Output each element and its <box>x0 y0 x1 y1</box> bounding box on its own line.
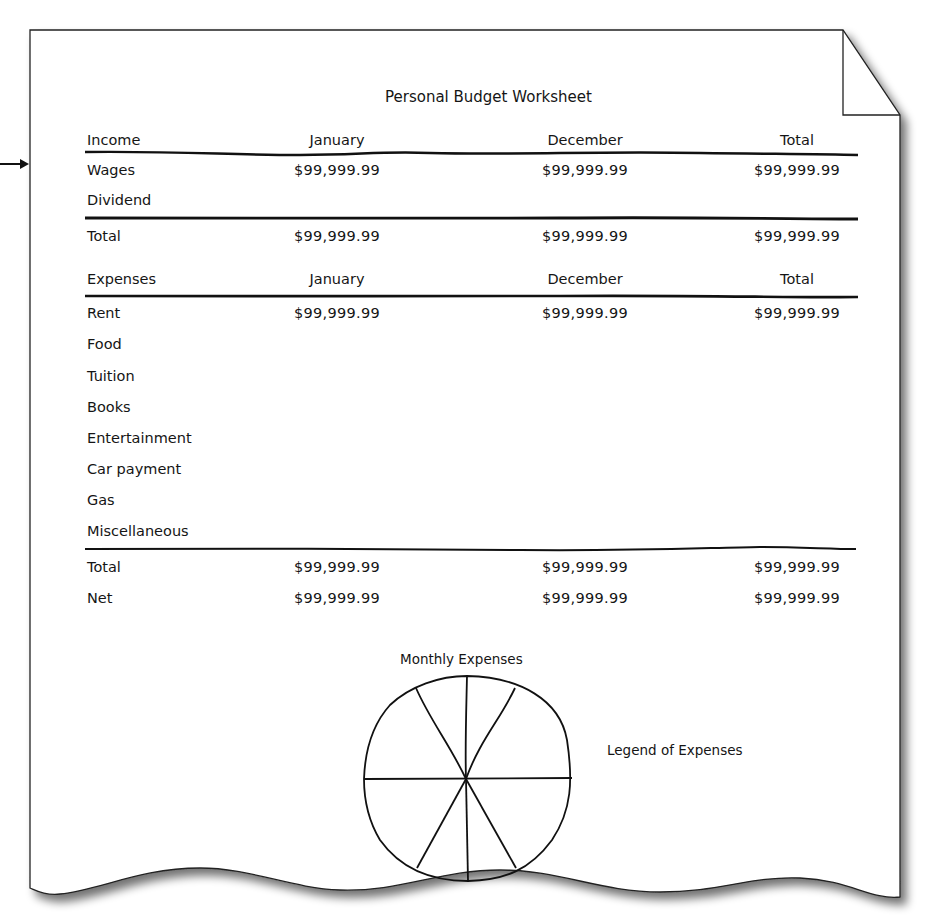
row-label-car-payment: Car payment <box>87 460 181 478</box>
expenses-total-january: $99,999.99 <box>294 558 380 576</box>
expenses-total-december: $99,999.99 <box>542 558 628 576</box>
arrow-right-icon <box>0 159 29 169</box>
wages-january: $99,999.99 <box>294 161 380 179</box>
net-december: $99,999.99 <box>542 589 628 607</box>
income-header-december: December <box>547 131 622 149</box>
net-total: $99,999.99 <box>754 589 840 607</box>
income-total-label: Total <box>87 227 121 245</box>
expenses-header-label: Expenses <box>87 270 156 288</box>
expenses-header-january: January <box>310 270 365 288</box>
row-label-dividend: Dividend <box>87 191 151 209</box>
income-total-total: $99,999.99 <box>754 227 840 245</box>
expenses-total-total: $99,999.99 <box>754 558 840 576</box>
rent-december: $99,999.99 <box>542 304 628 322</box>
wages-total: $99,999.99 <box>754 161 840 179</box>
row-label-wages: Wages <box>87 161 135 179</box>
pie-chart-legend: Legend of Expenses <box>607 741 743 759</box>
expenses-total-label: Total <box>87 558 121 576</box>
row-label-gas: Gas <box>87 491 115 509</box>
wages-december: $99,999.99 <box>542 161 628 179</box>
income-total-december: $99,999.99 <box>542 227 628 245</box>
net-january: $99,999.99 <box>294 589 380 607</box>
pie-chart-title: Monthly Expenses <box>400 650 523 668</box>
row-label-food: Food <box>87 335 122 353</box>
income-header-january: January <box>310 131 365 149</box>
row-label-books: Books <box>87 398 131 416</box>
row-label-entertainment: Entertainment <box>87 429 192 447</box>
expenses-header-december: December <box>547 270 622 288</box>
worksheet-title: Personal Budget Worksheet <box>385 88 592 106</box>
row-label-rent: Rent <box>87 304 120 322</box>
rent-total: $99,999.99 <box>754 304 840 322</box>
income-total-january: $99,999.99 <box>294 227 380 245</box>
net-label: Net <box>87 589 112 607</box>
rent-january: $99,999.99 <box>294 304 380 322</box>
expenses-header-rule <box>85 296 858 297</box>
row-label-miscellaneous: Miscellaneous <box>87 522 189 540</box>
expenses-header-total: Total <box>780 270 814 288</box>
income-total-rule <box>85 218 858 219</box>
income-header-total: Total <box>780 131 814 149</box>
row-label-tuition: Tuition <box>87 367 135 385</box>
income-header-label: Income <box>87 131 140 149</box>
